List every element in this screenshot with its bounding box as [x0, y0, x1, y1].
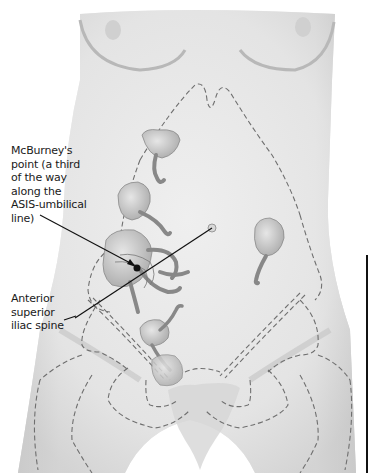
asis-label: Anterior superior iliac spine [11, 292, 91, 333]
torso-illustration [0, 0, 370, 473]
anatomical-diagram: McBurney's point (a third of the way alo… [0, 0, 370, 473]
page-edge-bar [366, 255, 368, 473]
mcburneys-point-label: McBurney's point (a third of the way alo… [11, 144, 121, 225]
right-nipple [295, 17, 311, 37]
left-nipple [105, 20, 121, 40]
mcburney-point-marker [134, 265, 141, 272]
